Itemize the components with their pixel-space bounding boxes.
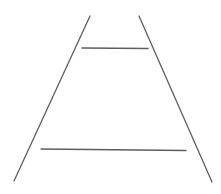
ponzo-illusion-diagram: [0, 0, 221, 194]
right-converging-line: [139, 16, 212, 182]
left-converging-line: [14, 16, 90, 181]
diagram-lines: [14, 16, 212, 182]
upper-horizontal-line: [82, 48, 148, 49]
lower-horizontal-line: [41, 149, 186, 151]
